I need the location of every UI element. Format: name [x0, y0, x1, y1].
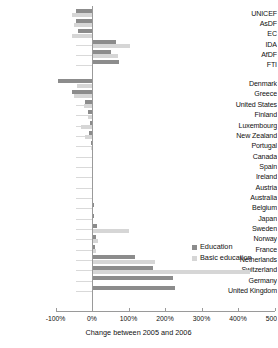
- bar-basic-education: [81, 125, 92, 129]
- x-axis-tick: [238, 308, 239, 311]
- bar-education: [78, 29, 92, 33]
- leader-line: [76, 65, 92, 66]
- x-axis-tick-label: 100%: [109, 315, 149, 322]
- leader-line: [76, 188, 92, 189]
- category-label: United Kingdom: [203, 285, 277, 297]
- legend-swatch-education: [192, 245, 197, 250]
- leader-line: [76, 281, 92, 282]
- x-axis-tick-label: 200%: [145, 315, 185, 322]
- x-axis-line: [56, 311, 275, 312]
- leader-line: [76, 270, 92, 271]
- bar-education: [92, 276, 173, 280]
- bar-education: [76, 9, 92, 13]
- chart-row: FTI: [0, 59, 277, 71]
- bar-basic-education: [84, 104, 92, 108]
- bar-education: [92, 60, 119, 64]
- bar-chart: UNICEFAsDFECIDAAfDFFTIDenmarkGreeceUnite…: [0, 0, 277, 348]
- leader-line: [76, 136, 85, 137]
- leader-line: [76, 157, 92, 158]
- x-axis-title: Change between 2005 and 2006: [0, 328, 277, 337]
- bar-education: [92, 286, 175, 290]
- legend-swatch-basic-education: [192, 256, 197, 261]
- bar-basic-education: [72, 13, 92, 17]
- x-axis-tick: [275, 308, 276, 311]
- bar-education: [58, 79, 92, 83]
- leader-line: [76, 115, 88, 116]
- bar-basic-education: [92, 44, 130, 48]
- bar-education: [72, 90, 92, 94]
- leader-line: [76, 239, 92, 240]
- leader-line: [76, 208, 92, 209]
- leader-line: [76, 291, 92, 292]
- leader-line: [76, 229, 92, 230]
- bar-basic-education: [72, 34, 92, 38]
- zero-axis-line: [92, 6, 93, 312]
- x-axis-tick: [129, 308, 130, 311]
- bar-education: [92, 50, 111, 54]
- leader-line: [76, 177, 92, 178]
- leader-line: [76, 55, 92, 56]
- leader-line: [76, 146, 91, 147]
- legend-label: Education: [200, 242, 232, 252]
- bar-basic-education: [74, 94, 92, 98]
- leader-line: [76, 45, 92, 46]
- x-axis-tick-label: 300%: [182, 315, 222, 322]
- bar-basic-education: [92, 260, 155, 264]
- plot-area: UNICEFAsDFECIDAAfDFFTIDenmarkGreeceUnite…: [0, 0, 277, 348]
- bar-education: [76, 19, 92, 23]
- chart-row: United Kingdom: [0, 285, 277, 297]
- leader-line: [76, 219, 92, 220]
- x-axis-tick: [202, 308, 203, 311]
- bar-basic-education: [92, 54, 118, 58]
- bar-education: [92, 40, 116, 44]
- x-axis-tick: [165, 308, 166, 311]
- leader-line: [76, 198, 92, 199]
- leader-line: [76, 250, 92, 251]
- x-axis-tick-label: -100%: [36, 315, 76, 322]
- bar-basic-education: [92, 270, 250, 274]
- bar-basic-education: [77, 84, 92, 88]
- x-axis-tick-label: 400%: [218, 315, 258, 322]
- bar-basic-education: [74, 23, 92, 27]
- bar-basic-education: [85, 135, 92, 139]
- leader-line: [76, 260, 92, 261]
- leader-line: [76, 105, 84, 106]
- leader-line: [76, 167, 92, 168]
- x-axis-tick: [92, 308, 93, 311]
- category-label: FTI: [203, 59, 277, 71]
- x-axis-tick: [56, 308, 57, 311]
- x-axis-tick-label: 500%: [255, 315, 278, 322]
- bar-education: [92, 266, 153, 270]
- bar-education: [85, 100, 92, 104]
- x-axis-tick-label: 0%: [72, 315, 112, 322]
- bar-basic-education: [92, 229, 129, 233]
- chart-legend: EducationBasic education: [192, 242, 277, 266]
- bar-education: [92, 255, 135, 259]
- legend-label: Basic education: [200, 253, 252, 263]
